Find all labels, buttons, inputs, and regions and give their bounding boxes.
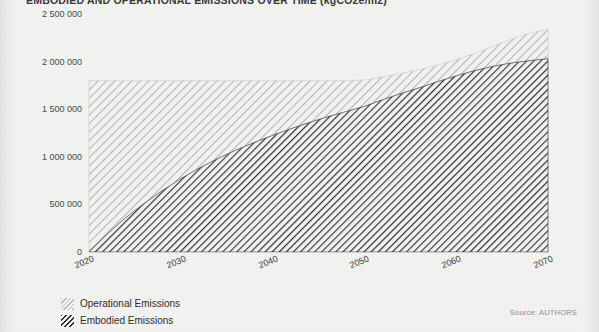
x-axis-tick-label: 2070	[532, 253, 554, 270]
legend-swatch-operational-icon	[61, 298, 74, 310]
chart-page: EMBODIED AND OPERATIONAL EMISSIONS OVER …	[0, 0, 599, 332]
x-axis-tick-label: 2060	[440, 253, 462, 270]
x-axis-tick-label: 2030	[165, 253, 187, 270]
legend-swatch-embodied-icon	[61, 315, 74, 327]
legend-label-operational: Operational Emissions	[80, 298, 180, 309]
x-axis: 202020302040205020602070	[0, 0, 599, 332]
source-note: Source: AUTHORS	[510, 308, 577, 317]
x-axis-tick-label: 2050	[348, 253, 370, 270]
legend-item-operational[interactable]: Operational Emissions	[61, 296, 180, 311]
legend-label-embodied: Embodied Emissions	[80, 315, 173, 326]
x-axis-tick-label: 2020	[73, 253, 95, 270]
chart-legend: Operational Emissions Embodied Emissions	[61, 296, 180, 330]
legend-item-embodied[interactable]: Embodied Emissions	[61, 313, 180, 328]
x-axis-tick-label: 2040	[257, 253, 279, 270]
